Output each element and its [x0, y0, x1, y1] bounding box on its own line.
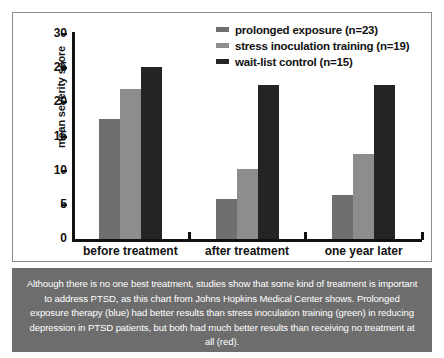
legend-item: wait-list control (n=15)	[216, 54, 426, 69]
x-axis-line	[72, 239, 422, 242]
bar	[374, 85, 395, 239]
bar	[237, 169, 258, 239]
y-axis-line	[72, 32, 75, 241]
x-category-label: one year later	[305, 244, 422, 258]
y-tick-label: 0	[41, 233, 67, 243]
x-category-label: after treatment	[189, 244, 306, 258]
chart-panel: mean severity score 051015202530 before …	[12, 12, 432, 262]
y-tick-mark	[61, 204, 67, 206]
bar	[353, 154, 374, 239]
x-tick-mark	[188, 232, 191, 240]
x-category-label: before treatment	[72, 244, 189, 258]
bar	[258, 85, 279, 239]
y-tick-mark	[61, 101, 67, 103]
legend-swatch-icon	[216, 27, 229, 32]
legend-swatch-icon	[216, 59, 229, 64]
x-tick-mark	[304, 232, 307, 240]
caption-text: Although there is no one best treatment,…	[25, 277, 419, 350]
y-tick-0: 0	[31, 233, 67, 243]
chart-figure: mean severity score 051015202530 before …	[0, 0, 444, 358]
y-tick-mark	[61, 33, 67, 35]
bar	[120, 89, 141, 239]
legend-item: prolonged exposure (n=23)	[216, 22, 426, 37]
bar	[141, 67, 162, 239]
bar	[99, 119, 120, 239]
y-tick-mark	[61, 136, 67, 138]
y-tick-mark	[61, 170, 67, 172]
legend-item: stress inoculation training (n=19)	[216, 38, 426, 53]
bar	[216, 199, 237, 239]
legend-label: prolonged exposure (n=23)	[235, 24, 378, 36]
legend-label: wait-list control (n=15)	[235, 56, 353, 68]
legend-swatch-icon	[216, 43, 229, 48]
bar	[332, 195, 353, 239]
legend-label: stress inoculation training (n=19)	[235, 40, 409, 52]
y-tick-mark	[61, 67, 67, 69]
x-tick-mark	[421, 232, 424, 240]
chart-legend: prolonged exposure (n=23)stress inoculat…	[216, 22, 426, 70]
caption-band: Although there is no one best treatment,…	[12, 268, 432, 352]
